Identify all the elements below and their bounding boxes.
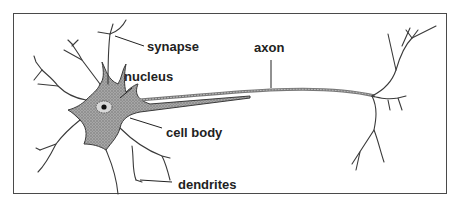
label-nucleus: nucleus <box>124 70 173 83</box>
label-cell-body: cell body <box>166 126 222 139</box>
cell-body-leader <box>130 118 162 128</box>
synapse-leader <box>115 36 144 46</box>
nucleolus-dot <box>101 104 106 109</box>
label-axon: axon <box>254 41 284 54</box>
label-synapse: synapse <box>147 40 199 53</box>
axon-terminals <box>352 26 436 170</box>
neuron-illustration <box>0 0 463 207</box>
dendrites-leader <box>140 180 172 182</box>
label-dendrites: dendrites <box>178 178 237 191</box>
